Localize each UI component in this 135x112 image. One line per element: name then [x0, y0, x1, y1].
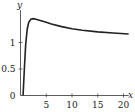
y-tick-label: 0	[10, 91, 16, 101]
y-tick-label: 1	[10, 38, 16, 48]
x-tick-label: 10	[66, 100, 78, 110]
x-tick-label: 20	[118, 100, 130, 110]
x-tick-label: 15	[92, 100, 104, 110]
axes	[21, 10, 129, 96]
line-chart: 510152000.51 x y	[0, 0, 135, 112]
y-tick-label: 0.5	[1, 64, 16, 74]
x-axis-label: x	[128, 90, 133, 100]
data-curve	[23, 19, 129, 96]
x-tick-label: 5	[43, 100, 49, 110]
y-axis-label: y	[16, 0, 23, 10]
